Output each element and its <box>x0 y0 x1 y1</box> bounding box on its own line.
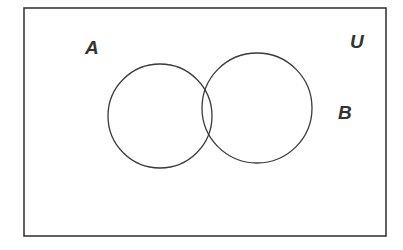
venn-diagram-figure: A B U <box>0 0 403 250</box>
region-outside-both <box>30 190 120 230</box>
venn-diagram-canvas: A B U <box>0 0 403 250</box>
set-b-label: B <box>338 102 352 123</box>
region-a-only <box>114 94 166 146</box>
region-a-intersect-b <box>198 98 226 126</box>
universal-set-label: U <box>350 31 365 52</box>
region-b-only <box>254 84 306 136</box>
set-a-label: A <box>84 37 99 58</box>
